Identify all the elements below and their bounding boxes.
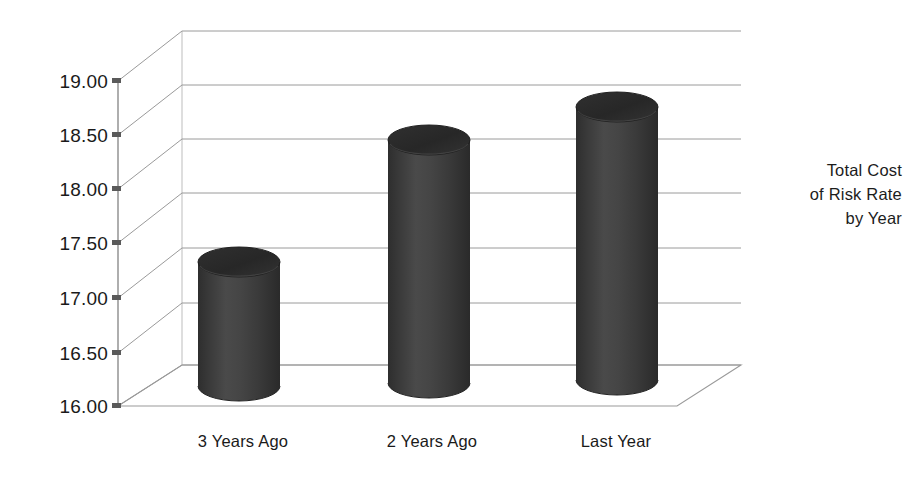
x-tick-label-2: Last Year [581, 432, 652, 451]
x-axis-labels: 3 Years Ago 2 Years Ago Last Year [0, 432, 917, 458]
y-axis-labels: 19.00 18.50 18.00 17.50 17.00 16.50 16.0… [0, 0, 108, 481]
y-tick-label: 17.50 [12, 234, 108, 253]
chart-title-line-2: of Risk Rate [752, 182, 902, 206]
y-tick-label: 18.50 [12, 126, 108, 145]
bar-3-years-ago [198, 247, 280, 401]
chart-title: Total Cost of Risk Rate by Year [752, 158, 902, 230]
y-tick-label: 18.00 [12, 180, 108, 199]
y-axis-ticks [112, 78, 121, 408]
y-tick-label: 16.50 [12, 344, 108, 363]
bar-last-year [576, 92, 658, 395]
y-tick-label: 17.00 [12, 289, 108, 308]
chart-canvas [0, 0, 917, 481]
x-tick-label-0: 3 Years Ago [198, 432, 288, 451]
bar-2-years-ago [388, 125, 470, 398]
chart-title-line-3: by Year [752, 206, 902, 230]
chart-3d-cylinder-total-cost-of-risk: 19.00 18.50 18.00 17.50 17.00 16.50 16.0… [0, 0, 917, 481]
chart-title-line-1: Total Cost [752, 158, 902, 182]
y-tick-label: 19.00 [12, 72, 108, 91]
y-tick-label: 16.00 [12, 397, 108, 416]
x-tick-label-1: 2 Years Ago [387, 432, 477, 451]
